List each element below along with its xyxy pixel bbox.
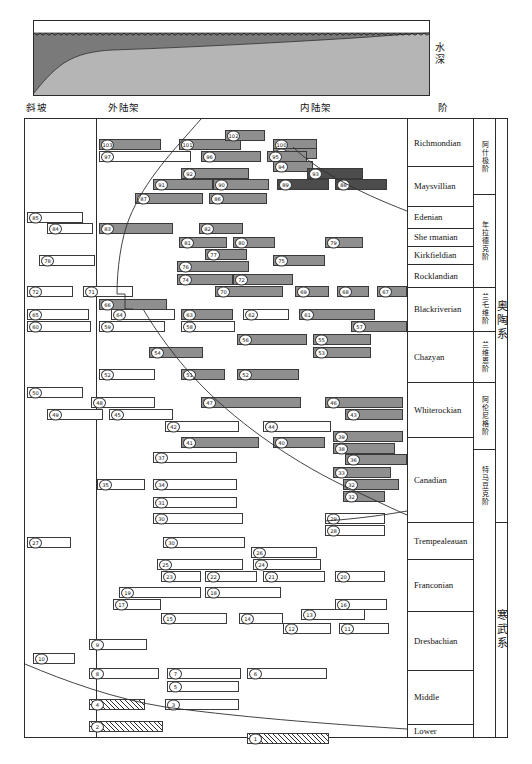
range-bar: 89 bbox=[277, 179, 329, 190]
range-bar: 72 bbox=[233, 274, 293, 285]
range-bar: 82 bbox=[199, 223, 243, 234]
range-bar-number: 35 bbox=[99, 479, 112, 490]
range-bar-number: 83 bbox=[101, 223, 114, 234]
range-bar: 92 bbox=[181, 168, 249, 179]
stage-row-1: Maysvillian bbox=[408, 166, 473, 206]
range-bar: 34 bbox=[153, 479, 237, 490]
range-bar: 67 bbox=[377, 286, 407, 297]
range-bar: 54 bbox=[149, 347, 203, 358]
range-bar: 72 bbox=[27, 286, 73, 297]
range-bar-number: 58 bbox=[183, 321, 196, 332]
range-bar: 13 bbox=[301, 609, 365, 620]
range-bar: 69 bbox=[295, 286, 329, 297]
stage-label: Franconian bbox=[414, 580, 453, 590]
range-bar: 24 bbox=[253, 559, 321, 570]
range-bar: 30 bbox=[163, 537, 245, 548]
range-bar-number: 67 bbox=[379, 286, 392, 297]
stage-label: Middle bbox=[414, 692, 439, 702]
range-bar: 30 bbox=[153, 513, 243, 524]
range-bar-number: 33 bbox=[335, 467, 348, 478]
range-bar-number: 15 bbox=[163, 613, 176, 624]
range-bar-number: 11 bbox=[341, 623, 354, 634]
range-bar: 17 bbox=[113, 599, 161, 610]
range-bar-number: 90 bbox=[215, 179, 228, 190]
range-bar: 49 bbox=[47, 409, 103, 420]
range-bar: 91 bbox=[153, 179, 213, 190]
series-divider bbox=[474, 331, 495, 332]
range-bar: 59 bbox=[99, 321, 165, 332]
range-bar-number: 20 bbox=[337, 571, 350, 582]
stage-label: Edenian bbox=[414, 212, 442, 222]
range-bar: 5 bbox=[167, 681, 239, 692]
range-bar-number: 52 bbox=[101, 369, 114, 380]
series-row-5: 特马豆克阶 bbox=[474, 449, 495, 522]
range-bar: 35 bbox=[97, 479, 145, 490]
range-bar: 32 bbox=[343, 479, 399, 490]
range-bar-number: 76 bbox=[179, 261, 192, 272]
range-bar-number: 71 bbox=[85, 286, 98, 297]
range-bar: 79 bbox=[325, 237, 363, 248]
header-outer-shelf: 外陆架 bbox=[108, 100, 140, 114]
stage-divider bbox=[408, 264, 473, 265]
range-bar-number: 54 bbox=[151, 347, 164, 358]
range-bar-number: 103 bbox=[101, 139, 114, 150]
range-bar: 1 bbox=[247, 733, 329, 744]
stage-label: Rocklandian bbox=[414, 271, 458, 281]
system-label: 奥陶系 bbox=[496, 300, 507, 342]
range-bar: 60 bbox=[27, 321, 91, 332]
range-bar: 68 bbox=[337, 286, 369, 297]
stage-label: Whiterockian bbox=[414, 405, 461, 415]
range-bar-number: 52 bbox=[239, 369, 252, 380]
range-bar-number: 37 bbox=[155, 452, 168, 463]
range-bar: 61 bbox=[299, 309, 375, 320]
range-bar: 57 bbox=[351, 321, 407, 332]
range-bar-number: 45 bbox=[111, 409, 124, 420]
range-bar: 2 bbox=[89, 721, 163, 732]
series-label: 兰乇维阶 bbox=[481, 293, 488, 325]
range-bar: 37 bbox=[153, 452, 237, 463]
range-bar-number: 64 bbox=[113, 309, 126, 320]
range-bar: 70 bbox=[215, 286, 283, 297]
range-bar: 78 bbox=[39, 255, 95, 266]
range-bar: 19 bbox=[119, 587, 201, 598]
range-bar-number: 56 bbox=[239, 334, 252, 345]
range-bar-number: 3 bbox=[167, 699, 180, 710]
range-bar: 40 bbox=[273, 437, 325, 448]
range-bar: 55 bbox=[313, 334, 371, 345]
range-bar: 85 bbox=[27, 212, 83, 223]
range-bar-number: 80 bbox=[235, 237, 248, 248]
range-bar-number: 65 bbox=[29, 309, 42, 320]
range-bar-number: 81 bbox=[181, 237, 194, 248]
range-bar-number: 10 bbox=[35, 653, 48, 664]
range-bar: 38 bbox=[333, 443, 395, 454]
series-divider bbox=[474, 449, 495, 450]
stage-row-7: Chazyan bbox=[408, 331, 473, 382]
stage-label: Kirkfieldian bbox=[414, 250, 456, 260]
range-bar: 6 bbox=[247, 668, 327, 679]
range-bar-number: 41 bbox=[183, 437, 196, 448]
range-bar: 3 bbox=[165, 699, 239, 710]
range-bar: 58 bbox=[181, 321, 235, 332]
range-bar-number: 61 bbox=[301, 309, 314, 320]
stage-row-4: Kirkfieldian bbox=[408, 246, 473, 264]
range-bar: 90 bbox=[213, 179, 269, 190]
range-bar-number: 38 bbox=[335, 443, 348, 454]
range-bar-number: 30 bbox=[165, 537, 178, 548]
range-bar-number: 63 bbox=[183, 309, 196, 320]
range-bar-number: 2 bbox=[91, 721, 104, 732]
range-bar-number: 82 bbox=[201, 223, 214, 234]
system-label: 寒武系 bbox=[496, 609, 507, 651]
range-bar: 45 bbox=[109, 409, 173, 420]
range-bar-number: 32 bbox=[345, 491, 358, 502]
range-bar-number: 69 bbox=[297, 286, 310, 297]
stage-label: Trempealeauan bbox=[414, 536, 467, 546]
system-row-0: 奥陶系 bbox=[496, 119, 507, 522]
range-bar: 4 bbox=[89, 699, 145, 710]
header-inner-shelf: 内陆架 bbox=[300, 100, 332, 114]
range-bar: 46 bbox=[325, 397, 403, 408]
series-row-3: 兰维恩阶 bbox=[474, 331, 495, 382]
stage-label: Richmondian bbox=[414, 138, 461, 148]
range-bar: 28 bbox=[325, 525, 385, 536]
range-bar-number: 49 bbox=[49, 409, 62, 420]
stage-row-5: Rocklandian bbox=[408, 264, 473, 287]
